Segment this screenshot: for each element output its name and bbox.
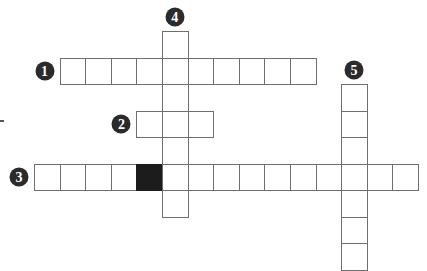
- crossword-cell[interactable]: [85, 58, 112, 86]
- clue-number-1-across: 1: [35, 61, 54, 80]
- crossword-cell[interactable]: [290, 164, 317, 192]
- crossword-cell[interactable]: [341, 243, 368, 271]
- crossword-cell[interactable]: [188, 58, 215, 86]
- crossword-cell[interactable]: [213, 58, 240, 86]
- crossword-cell[interactable]: [60, 58, 87, 86]
- crossword-cell[interactable]: [111, 58, 138, 86]
- crossword-cell[interactable]: [341, 190, 368, 218]
- crossword-cell[interactable]: [162, 164, 189, 192]
- crossword-cell[interactable]: [239, 164, 266, 192]
- crossword-cell[interactable]: [136, 111, 163, 139]
- crossword-cell[interactable]: [111, 164, 138, 192]
- crossword-cell[interactable]: [290, 58, 317, 86]
- crossword-cell[interactable]: [162, 190, 189, 218]
- crossword-cell[interactable]: [341, 111, 368, 139]
- crossword-cell[interactable]: [60, 164, 87, 192]
- crossword-cell[interactable]: [162, 31, 189, 59]
- crossword-cell[interactable]: [367, 164, 394, 192]
- crossword-cell[interactable]: [341, 164, 368, 192]
- crossword-cell[interactable]: [85, 164, 112, 192]
- black-cell: [136, 164, 163, 192]
- crossword-cell[interactable]: [136, 58, 163, 86]
- crossword-cell[interactable]: [341, 217, 368, 245]
- clue-number-2-across: 2: [112, 114, 131, 133]
- clue-number-3-across: 3: [10, 167, 29, 186]
- crossword-cell[interactable]: [162, 137, 189, 165]
- crossword-cell[interactable]: [264, 164, 291, 192]
- crossword-cell[interactable]: [341, 84, 368, 112]
- crossword-cell[interactable]: [34, 164, 61, 192]
- crossword-cell[interactable]: [162, 58, 189, 86]
- crossword-cell[interactable]: [341, 137, 368, 165]
- crossword-cell[interactable]: [213, 164, 240, 192]
- crossword-cell[interactable]: [188, 164, 215, 192]
- crossword-cell[interactable]: [264, 58, 291, 86]
- crossword-cell[interactable]: [316, 164, 343, 192]
- crossword-cell[interactable]: [239, 58, 266, 86]
- crossword-cell[interactable]: [162, 84, 189, 112]
- clue-number-4-down: 4: [165, 8, 184, 27]
- clue-number-5-down: 5: [345, 61, 364, 80]
- crossword-cell[interactable]: [162, 111, 189, 139]
- crossword-cell[interactable]: [188, 111, 215, 139]
- crossword-cell[interactable]: [392, 164, 419, 192]
- stray-mark: [0, 120, 4, 122]
